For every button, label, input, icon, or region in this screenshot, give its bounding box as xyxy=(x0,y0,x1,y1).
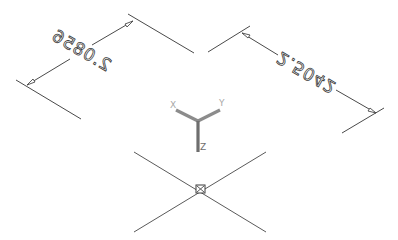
dimension-text-right: 2.5042 xyxy=(273,48,340,98)
ucs-icon[interactable]: X Y Z xyxy=(170,98,225,152)
arrow-left-top-icon xyxy=(125,21,133,27)
dimension-text-left: 2.0856 xyxy=(48,25,115,75)
drawing-viewport[interactable]: 2.0856 2.5042 X Y Z xyxy=(0,0,398,240)
arrow-left-bottom-icon xyxy=(27,79,35,85)
ucs-x-label: X xyxy=(170,100,176,110)
crosshair-cursor xyxy=(134,152,266,232)
ucs-y-axis-icon xyxy=(198,110,220,121)
dimension-left[interactable]: 2.0856 xyxy=(16,14,194,119)
drawing-canvas[interactable]: 2.0856 2.5042 X Y Z xyxy=(0,0,398,240)
extension-line-right-top xyxy=(208,26,250,52)
extension-line-right-bottom xyxy=(342,108,384,133)
extension-line-left-top xyxy=(128,14,194,53)
dimension-right[interactable]: 2.5042 xyxy=(208,26,384,133)
ucs-z-label: Z xyxy=(200,142,206,152)
ucs-x-axis-icon xyxy=(176,110,198,121)
ucs-y-label: Y xyxy=(218,98,225,108)
arrow-right-top-icon xyxy=(242,33,250,38)
arrow-right-bottom-icon xyxy=(368,108,376,113)
extension-line-left-bottom xyxy=(16,80,81,119)
